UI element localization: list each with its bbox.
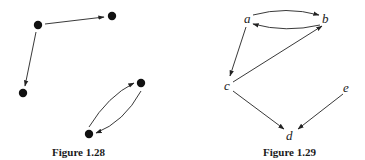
node-label-a: a xyxy=(244,11,251,26)
edge-a-c xyxy=(230,27,246,76)
node-label-d: d xyxy=(286,128,293,143)
edge-a-b xyxy=(253,11,319,16)
graph-node xyxy=(85,130,93,138)
edge-n5-n4 xyxy=(89,83,134,127)
edge-n1-n2 xyxy=(45,17,104,24)
edge-b-a xyxy=(253,24,320,29)
edge-n1-n3 xyxy=(25,32,36,86)
figure-1-28: Figure 1.28 xyxy=(19,12,145,158)
edge-c-b xyxy=(233,26,322,82)
graph-node xyxy=(137,79,145,87)
graph-node xyxy=(34,21,42,29)
diagram-canvas: Figure 1.28 a b c d e Figure 1.29 xyxy=(0,0,365,160)
node-label-e: e xyxy=(343,80,349,95)
edge-n4-n5 xyxy=(96,91,141,133)
edge-e-d xyxy=(298,94,343,129)
node-label-c: c xyxy=(224,78,230,93)
figure-caption: Figure 1.29 xyxy=(263,146,316,158)
figure-caption: Figure 1.28 xyxy=(52,146,105,158)
node-label-b: b xyxy=(322,11,329,26)
graph-node xyxy=(19,89,27,97)
edge-c-d xyxy=(233,91,284,129)
graph-node xyxy=(108,12,116,20)
figure-1-29: a b c d e Figure 1.29 xyxy=(224,11,349,159)
